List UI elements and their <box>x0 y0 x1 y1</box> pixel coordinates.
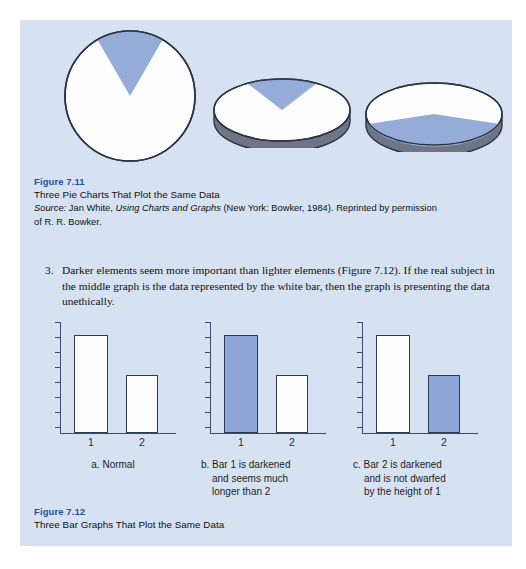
y-axis <box>362 322 363 434</box>
caption-line-1: a. Normal <box>38 458 188 472</box>
y-tick <box>357 412 363 413</box>
x-label-1: 1 <box>231 436 251 448</box>
figure-7-11-source: Source: Jan White, Using Charts and Grap… <box>34 202 504 229</box>
bar-1 <box>224 335 258 433</box>
y-tick <box>205 367 211 368</box>
bar-1 <box>376 335 410 433</box>
y-tick <box>55 382 61 383</box>
source-text-1: Jan White, <box>66 203 115 213</box>
y-tick <box>205 322 211 323</box>
numbered-paragraph-3: 3. Darker elements seem more important t… <box>45 263 495 310</box>
x-label-2: 2 <box>282 436 302 448</box>
y-tick <box>55 367 61 368</box>
y-tick <box>55 412 61 413</box>
bar-chart-b-caption: b. Bar 1 is darkened and seems much long… <box>201 458 341 499</box>
figure-7-11-graphic <box>20 20 512 168</box>
source-label: Source: <box>34 203 66 213</box>
y-tick <box>357 382 363 383</box>
y-tick <box>55 427 61 428</box>
caption-line-2: and seems much <box>201 472 341 486</box>
y-tick <box>357 352 363 353</box>
x-axis <box>362 433 478 434</box>
bar-2 <box>276 375 308 433</box>
x-label-1: 1 <box>81 436 101 448</box>
x-label-1: 1 <box>383 436 403 448</box>
caption-line-3: longer than 2 <box>201 485 341 499</box>
y-tick <box>55 352 61 353</box>
bar-chart-c-caption: c. Bar 2 is darkened and is not dwarfed … <box>353 458 493 499</box>
y-tick <box>357 322 363 323</box>
y-axis <box>60 322 61 434</box>
x-label-2: 2 <box>434 436 454 448</box>
figure-7-11-caption: Figure 7.11 Three Pie Charts That Plot t… <box>34 175 504 229</box>
textbook-page: Figure 7.11 Three Pie Charts That Plot t… <box>20 20 512 546</box>
bar-chart-b-xlabels: 1 2 <box>210 436 326 450</box>
bar-chart-c-xlabels: 1 2 <box>362 436 478 450</box>
source-text-3: of R. R. Bowker. <box>34 216 504 230</box>
bar-chart-a-xlabels: 1 2 <box>60 436 176 450</box>
caption-line-1: c. Bar 2 is darkened <box>353 458 493 472</box>
source-book-title: Using Charts and Graphs <box>116 203 221 213</box>
pie-chart-b <box>212 72 352 152</box>
bar-chart-c-plot <box>362 322 478 434</box>
bar-chart-a-caption: a. Normal <box>38 458 188 472</box>
y-tick <box>205 337 211 338</box>
pie-chart-a-svg <box>62 28 198 164</box>
bar-chart-a: 1 2 a. Normal <box>38 318 188 523</box>
caption-line-1: b. Bar 1 is darkened <box>201 458 341 472</box>
bar-chart-b: 1 2 b. Bar 1 is darkened and seems much … <box>188 318 338 523</box>
y-tick <box>205 412 211 413</box>
y-tick <box>205 352 211 353</box>
y-tick <box>55 397 61 398</box>
y-tick <box>205 382 211 383</box>
y-axis <box>210 322 211 434</box>
figure-7-11-number: Figure 7.11 <box>34 175 504 188</box>
figure-7-12-number: Figure 7.12 <box>34 505 504 518</box>
figure-7-12-graphic: 1 2 a. Normal <box>20 318 512 523</box>
x-axis <box>60 433 176 434</box>
x-label-2: 2 <box>132 436 152 448</box>
figure-7-12-title: Three Bar Graphs That Plot the Same Data <box>34 518 504 532</box>
y-tick <box>357 337 363 338</box>
pie-chart-a <box>62 28 198 168</box>
source-text-2: (New York: Bowker, 1984). Reprinted by p… <box>221 203 437 213</box>
list-marker: 3. <box>45 263 61 279</box>
y-tick <box>55 337 61 338</box>
y-tick <box>357 397 363 398</box>
pie-chart-c-svg <box>364 76 504 152</box>
caption-line-2: and is not dwarfed <box>353 472 493 486</box>
y-tick <box>205 427 211 428</box>
bar-2 <box>428 375 460 433</box>
paragraph-text: Darker elements seem more important than… <box>62 263 495 310</box>
y-tick <box>205 397 211 398</box>
bar-1 <box>74 335 108 433</box>
caption-line-3: by the height of 1 <box>353 485 493 499</box>
figure-7-12-caption: Figure 7.12 Three Bar Graphs That Plot t… <box>34 505 504 532</box>
bar-2 <box>126 375 158 433</box>
bar-chart-a-plot <box>60 322 176 434</box>
y-tick <box>55 322 61 323</box>
figure-7-11-title: Three Pie Charts That Plot the Same Data <box>34 188 504 202</box>
pie-chart-b-svg <box>212 72 352 148</box>
bar-chart-b-plot <box>210 322 326 434</box>
pie-chart-c <box>364 76 504 156</box>
y-tick <box>357 427 363 428</box>
y-tick <box>357 367 363 368</box>
x-axis <box>210 433 326 434</box>
bar-chart-c: 1 2 c. Bar 2 is darkened and is not dwar… <box>340 318 490 523</box>
